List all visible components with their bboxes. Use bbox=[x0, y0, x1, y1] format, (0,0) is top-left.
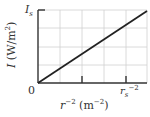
x-axis-label-units-exp: −2 bbox=[94, 98, 104, 106]
x-tick-label-rs: rs−2 bbox=[120, 84, 139, 99]
y-axis-label-units: (W/m bbox=[5, 30, 18, 63]
x-axis-label-close: ) bbox=[104, 99, 108, 112]
x-axis-label-exp: −2 bbox=[65, 98, 75, 106]
origin-label: 0 bbox=[28, 84, 35, 97]
y-axis-label: I (W/m2) bbox=[4, 22, 18, 68]
y-axis-label-exp: 2 bbox=[4, 26, 12, 30]
x-tick-exp: −2 bbox=[128, 84, 138, 92]
x-axis-label-units: (m bbox=[76, 99, 94, 112]
x-axis-label: r−2 (m−2) bbox=[60, 98, 108, 112]
x-tick-subscript: s bbox=[125, 91, 129, 99]
y-axis-label-symbol: I bbox=[5, 64, 18, 68]
y-tick-label-is: Is bbox=[25, 3, 33, 18]
y-tick-subscript: s bbox=[29, 10, 33, 18]
y-axis-label-close: ) bbox=[5, 22, 18, 26]
